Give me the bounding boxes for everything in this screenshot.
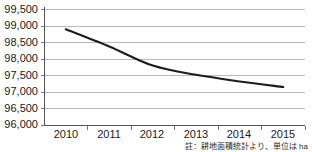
xtick-label-2014: 2014 bbox=[227, 128, 251, 140]
y-axis-ticks bbox=[41, 10, 44, 126]
ytick-label-97000: 97,000 bbox=[4, 85, 38, 97]
ytick-label-98500: 98,500 bbox=[4, 36, 38, 48]
xtick-label-2011: 2011 bbox=[97, 128, 121, 140]
xtick-label-2015: 2015 bbox=[271, 128, 295, 140]
xtick-label-2010: 2010 bbox=[54, 128, 78, 140]
line-chart: 99,500 99,000 98,500 98,000 97,500 97,00… bbox=[0, 0, 312, 152]
ytick-label-96500: 96,500 bbox=[4, 102, 38, 114]
ytick-label-99500: 99,500 bbox=[4, 3, 38, 15]
chart-footnote: 註：耕地面積統計より、単位は ha bbox=[185, 142, 308, 152]
ytick-label-97500: 97,500 bbox=[4, 69, 38, 81]
xtick-label-2012: 2012 bbox=[140, 128, 164, 140]
ytick-label-96000: 96,000 bbox=[4, 118, 38, 130]
series-line-cultivated-area bbox=[66, 29, 284, 87]
xtick-label-2013: 2013 bbox=[184, 128, 208, 140]
ytick-label-99000: 99,000 bbox=[4, 19, 38, 31]
chart-canvas: 99,500 99,000 98,500 98,000 97,500 97,00… bbox=[0, 0, 312, 152]
y-axis-labels: 99,500 99,000 98,500 98,000 97,500 97,00… bbox=[4, 3, 38, 131]
ytick-label-98000: 98,000 bbox=[4, 52, 38, 64]
gridlines bbox=[44, 10, 305, 109]
